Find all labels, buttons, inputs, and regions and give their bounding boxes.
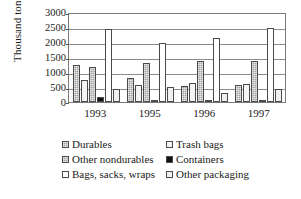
bar [73, 65, 80, 102]
bar [143, 63, 150, 102]
legend-swatch-icon [166, 156, 173, 163]
bar [251, 61, 258, 102]
bar [181, 86, 188, 102]
legend: DurablesTrash bagsOther nondurablesConta… [62, 138, 274, 180]
legend-item[interactable]: Other nondurables [62, 153, 166, 165]
legend-label: Containers [176, 153, 224, 165]
y-tick-label: 1000 [30, 68, 66, 78]
bar [97, 97, 104, 102]
legend-label: Other packaging [176, 168, 249, 180]
bar [205, 100, 212, 102]
bar [267, 28, 274, 102]
bar-groups [69, 14, 285, 102]
bar [243, 84, 250, 102]
bar [197, 61, 204, 102]
bar-group [123, 14, 177, 102]
bar [105, 29, 112, 103]
y-tick-label: 2000 [30, 38, 66, 48]
bar [275, 89, 282, 102]
bar [127, 78, 134, 102]
legend-item[interactable]: Trash bags [166, 138, 274, 150]
x-tick-label: 1995 [123, 107, 178, 119]
bar [135, 85, 142, 102]
legend-swatch-icon [62, 156, 69, 163]
bar [159, 43, 166, 102]
bar-group [231, 14, 285, 102]
legend-label: Durables [72, 138, 112, 150]
legend-item[interactable]: Other packaging [166, 168, 274, 180]
y-tick-label: 500 [30, 83, 66, 93]
bar [81, 80, 88, 102]
bar-group [177, 14, 231, 102]
plot-area [68, 13, 286, 103]
bar [259, 100, 266, 102]
bar [113, 89, 120, 103]
bar [189, 83, 196, 102]
legend-swatch-icon [166, 141, 173, 148]
bar [221, 93, 228, 102]
legend-item[interactable]: Bags, sacks, wraps [62, 168, 166, 180]
bar [235, 85, 242, 102]
bar [89, 67, 96, 102]
x-axis-tick-labels: 1993199519961997 [68, 107, 286, 119]
legend-label: Bags, sacks, wraps [72, 168, 155, 180]
y-tick-mark [66, 103, 69, 104]
x-tick-label: 1993 [68, 107, 123, 119]
y-tick-label: 1500 [30, 53, 66, 63]
legend-label: Trash bags [176, 138, 224, 150]
bar-chart: Thousand tons 300025002000150010005000 1… [0, 0, 301, 199]
legend-swatch-icon [62, 171, 69, 178]
y-axis-tick-labels: 300025002000150010005000 [30, 8, 66, 104]
legend-swatch-icon [166, 171, 173, 178]
legend-item[interactable]: Containers [166, 153, 274, 165]
bar [213, 38, 220, 103]
y-tick-label: 3000 [30, 8, 66, 18]
y-axis-title: Thousand tons [11, 0, 23, 74]
bar [167, 87, 174, 102]
x-tick-label: 1996 [177, 107, 232, 119]
bar [151, 100, 158, 102]
legend-swatch-icon [62, 141, 69, 148]
legend-label: Other nondurables [72, 153, 154, 165]
y-tick-label: 2500 [30, 23, 66, 33]
y-tick-label: 0 [30, 98, 66, 108]
x-tick-label: 1997 [232, 107, 287, 119]
legend-item[interactable]: Durables [62, 138, 166, 150]
bar-group [69, 14, 123, 102]
